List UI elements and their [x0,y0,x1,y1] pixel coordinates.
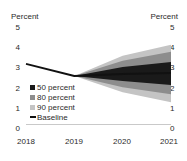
x-tick-2021: 2021 [160,137,178,146]
x-tick-2019: 2019 [65,137,83,146]
x-tick-2020: 2020 [113,137,131,146]
x-tick-2018: 2018 [17,137,35,146]
legend-item-80-percent: 80 percent [30,92,75,102]
legend-item-50-percent: 50 percent [30,82,75,92]
legend-label-80-percent: 80 percent [37,93,75,102]
chart-legend: 50 percent 80 percent 90 percent Baselin… [30,82,75,122]
swatch-medium-icon [30,95,35,100]
swatch-dark-icon [30,85,35,90]
fan-chart: Percent Percent 5 4 3 2 1 0 5 4 3 2 1 0 … [0,0,187,161]
swatch-light-icon [30,105,35,110]
legend-label-baseline: Baseline [37,113,68,122]
legend-label-50-percent: 50 percent [37,83,75,92]
legend-label-90-percent: 90 percent [37,103,75,112]
legend-item-90-percent: 90 percent [30,102,75,112]
legend-item-baseline: Baseline [30,112,75,122]
line-black-icon [30,116,36,118]
